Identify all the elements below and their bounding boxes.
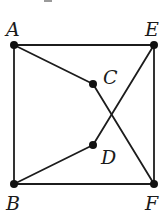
vertex-a [10,41,18,49]
vertex-label-a: A [4,18,20,40]
edges-group [14,45,154,184]
vertex-label-f: F [144,192,159,212]
vertex-label-c: C [103,66,118,88]
edge-b-d [14,145,93,184]
edge-d-e [93,45,154,145]
vertex-label-b: B [5,192,20,212]
vertex-f [150,180,158,188]
labels-group: AECDBF [4,18,159,212]
vertex-label-d: D [100,146,116,168]
vertex-label-e: E [144,18,159,40]
top-mark [44,0,52,2]
vertices-group [10,41,158,188]
vertex-d [89,141,97,149]
vertex-c [89,80,97,88]
graph-diagram: AECDBF [0,0,166,212]
vertex-b [10,180,18,188]
vertex-e [150,41,158,49]
edge-c-f [93,84,154,184]
edge-a-c [14,45,93,84]
